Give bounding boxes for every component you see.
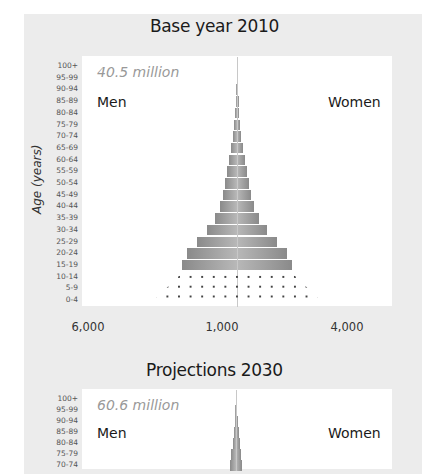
women-label-2010: Women xyxy=(328,94,381,110)
age-label: 70-74 xyxy=(22,130,78,142)
age-label: 85-89 xyxy=(22,426,78,438)
x-tick: 6,000 xyxy=(72,320,105,334)
age-label: 5-9 xyxy=(22,282,78,294)
chart-title-2010: Base year 2010 xyxy=(0,16,429,36)
age-label: 95-99 xyxy=(22,72,78,84)
bar-men xyxy=(225,178,237,189)
age-label: 75-79 xyxy=(22,448,78,460)
bar-men xyxy=(220,201,237,212)
men-label-2010: Men xyxy=(97,94,127,110)
bar-women xyxy=(237,201,254,212)
age-label: 90-94 xyxy=(22,415,78,427)
bar-women xyxy=(237,155,245,166)
center-axis-line xyxy=(237,57,238,307)
bar-men xyxy=(227,166,237,177)
bar-women xyxy=(237,260,292,271)
total-population-2010: 40.5 million xyxy=(97,64,179,80)
y-axis-title-2010: Age (years) xyxy=(30,145,44,214)
bar-men xyxy=(207,225,237,236)
age-label: 15-19 xyxy=(22,259,78,271)
bar-women xyxy=(237,178,249,189)
bar-women xyxy=(237,248,287,259)
chart-title-2030: Projections 2030 xyxy=(0,360,429,380)
x-tick: 4,000 xyxy=(331,320,364,334)
total-population-2030: 60.6 million xyxy=(97,397,179,413)
age-label: 80-84 xyxy=(22,107,78,119)
bar-men xyxy=(187,248,237,259)
bar-women xyxy=(237,166,247,177)
age-label: 90-94 xyxy=(22,83,78,95)
bar-men xyxy=(229,155,237,166)
bar-men xyxy=(182,260,237,271)
age-label: 100+ xyxy=(22,60,78,72)
men-label-2030: Men xyxy=(97,425,127,441)
age-label: 25-29 xyxy=(22,236,78,248)
bar-men xyxy=(223,190,237,201)
bar-women xyxy=(237,213,259,224)
bar-men xyxy=(215,213,237,224)
age-label: 95-99 xyxy=(22,404,78,416)
bar-women xyxy=(237,225,267,236)
age-label: 70-74 xyxy=(22,459,78,471)
age-label: 20-24 xyxy=(22,247,78,259)
bar-women xyxy=(237,190,251,201)
x-tick: 1,000 xyxy=(206,320,239,334)
age-label: 30-34 xyxy=(22,224,78,236)
center-axis-line xyxy=(236,390,237,471)
women-label-2030: Women xyxy=(328,425,381,441)
age-label: 80-84 xyxy=(22,437,78,449)
age-label: 0-4 xyxy=(22,294,78,306)
bar-women xyxy=(237,237,277,248)
age-label: 75-79 xyxy=(22,119,78,131)
age-label: 85-89 xyxy=(22,95,78,107)
age-label: 10-14 xyxy=(22,271,78,283)
age-label: 100+ xyxy=(22,393,78,405)
bar-men xyxy=(197,237,237,248)
